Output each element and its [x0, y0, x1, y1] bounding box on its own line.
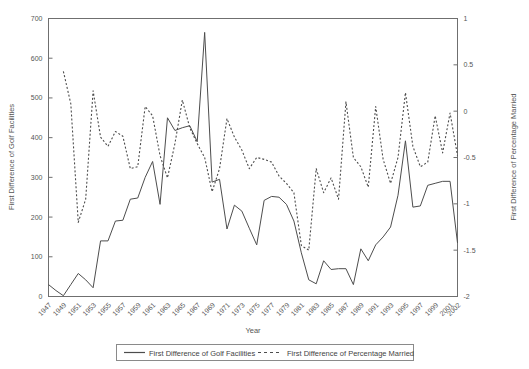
y-axis-left-tick-label: 400 [31, 134, 43, 141]
y-axis-right-tick-label: -2 [464, 293, 470, 300]
x-axis-tick-label: 1969 [200, 301, 216, 317]
x-axis-tick-label: 1961 [141, 301, 157, 317]
x-axis-tick-label: 1985 [319, 301, 335, 317]
y-axis-right-ticks [454, 19, 458, 297]
y-axis-left-tick-label: 700 [31, 15, 43, 22]
y-axis-left-tick-label: 100 [31, 253, 43, 260]
y-axis-left-tick-label: 600 [31, 55, 43, 62]
y-axis-left-title: First Difference of Golf Facilities [7, 104, 16, 210]
y-axis-left-tick-label: 0 [39, 293, 43, 300]
x-axis-tick-label: 1987 [334, 301, 350, 317]
x-axis-title: Year [245, 326, 261, 335]
x-axis-tick-label: 1973 [230, 301, 246, 317]
y-axis-left-labels: 0100200300400500600700 [31, 15, 43, 300]
x-axis-tick-label: 1983 [304, 301, 320, 317]
x-axis-tick-labels: 1947194919511953195519571959196119631965… [37, 301, 462, 317]
y-axis-left-tick-label: 500 [31, 94, 43, 101]
x-axis-tick-label: 1993 [379, 301, 395, 317]
x-axis-tick-label: 1979 [275, 301, 291, 317]
x-axis-tick-label: 1951 [66, 301, 82, 317]
x-axis-tick-label: 1947 [37, 301, 53, 317]
y-axis-right-tick-label: 0 [464, 108, 468, 115]
legend-label-golf-facilities: First Difference of Golf Facilities [149, 349, 255, 358]
series-line-golf-facilities [49, 32, 458, 295]
chart-legend: First Difference of Golf Facilities Firs… [117, 345, 415, 361]
y-axis-right-title: First Difference of Percentage Married [509, 94, 518, 221]
x-axis-tick-label: 1949 [52, 301, 68, 317]
x-axis-tick-label: 1981 [290, 301, 306, 317]
x-axis-tick-label: 1955 [96, 301, 112, 317]
x-axis-tick-label: 1971 [215, 301, 231, 317]
x-axis-tick-label: 1963 [156, 301, 172, 317]
x-axis-tick-label: 1959 [126, 301, 142, 317]
y-axis-left-ticks [49, 19, 53, 297]
x-axis-tick-label: 1957 [111, 301, 127, 317]
golf-marriage-first-difference-chart: 0100200300400500600700 -2-1.5-1-0.500.51… [0, 0, 529, 369]
x-axis-tick-label: 1999 [423, 301, 439, 317]
x-axis-tick-label: 1965 [171, 301, 187, 317]
x-axis-tick-label: 1967 [185, 301, 201, 317]
y-axis-right-tick-label: -0.5 [464, 154, 476, 161]
y-axis-right-labels: -2-1.5-1-0.500.51 [464, 15, 476, 300]
x-axis-tick-label: 1995 [394, 301, 410, 317]
x-axis-tick-label: 1975 [245, 301, 261, 317]
plot-frame [49, 19, 458, 297]
legend-label-percentage-married: First Difference of Percentage Married [287, 349, 414, 358]
x-axis-tick-label: 1989 [349, 301, 365, 317]
y-axis-left-tick-label: 300 [31, 174, 43, 181]
y-axis-right-tick-label: -1.5 [464, 247, 476, 254]
y-axis-right-tick-label: 1 [464, 15, 468, 22]
x-axis-tick-label: 1997 [409, 301, 425, 317]
x-axis-tick-label: 1953 [81, 301, 97, 317]
x-axis-tick-label: 1977 [260, 301, 276, 317]
y-axis-left-tick-label: 200 [31, 214, 43, 221]
y-axis-right-tick-label: 0.5 [464, 61, 474, 68]
y-axis-right-tick-label: -1 [464, 200, 470, 207]
x-axis-tick-label: 1991 [364, 301, 380, 317]
